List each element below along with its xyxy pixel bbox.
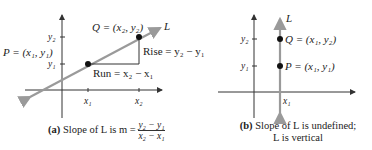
point-p-b	[277, 63, 283, 69]
caption-a: (a) Slope of L is m = y₂ − y₁ x₂ − x₁	[48, 120, 198, 141]
tick-y2-b: y₂	[240, 34, 249, 44]
label-rise: Rise = y₂ − y₁	[143, 45, 205, 57]
label-line-l: L	[163, 20, 170, 32]
caption-a-tag: (a)	[48, 124, 60, 135]
tick-y2: y₂	[47, 32, 56, 42]
caption-b-line2: L is vertical	[228, 132, 368, 144]
caption-a-fraction: y₂ − y₁ x₂ − x₁	[138, 120, 164, 141]
tick-x1-b: x₁	[282, 96, 291, 106]
caption-b-tag: (b)	[240, 120, 253, 131]
caption-a-numerator: y₂ − y₁	[138, 120, 164, 131]
tick-x2: x₂	[134, 96, 143, 106]
caption-a-text: Slope of L is m =	[63, 124, 136, 135]
panel-a: Q = (x₂, y₂) L P = (x₁, y₁) Rise = y₂ − …	[2, 15, 205, 118]
label-line-l-b: L	[285, 12, 292, 24]
label-p: P = (x₁, y₁)	[2, 46, 53, 59]
tick-x1: x₁	[83, 96, 92, 106]
tick-y1-b: y₁	[240, 61, 249, 71]
caption-a-denominator: x₂ − x₁	[138, 131, 164, 141]
point-q-b	[277, 36, 283, 42]
point-q	[136, 34, 142, 40]
label-q: Q = (x₂, y₂)	[92, 21, 143, 34]
tick-y1: y₁	[47, 59, 56, 69]
caption-b-line1: Slope of L is undefined;	[255, 120, 356, 131]
caption-b: (b) Slope of L is undefined; L is vertic…	[228, 120, 368, 144]
panel-b: L Q = (x₁, y₂) P = (x₁, y₁) y₂ y₁ x₁	[218, 12, 355, 118]
label-run: Run = x₂ − x₁	[93, 67, 154, 79]
label-q-b: Q = (x₁, y₂)	[285, 33, 336, 46]
point-p	[85, 61, 91, 67]
label-p-b: P = (x₁, y₁)	[284, 60, 335, 73]
